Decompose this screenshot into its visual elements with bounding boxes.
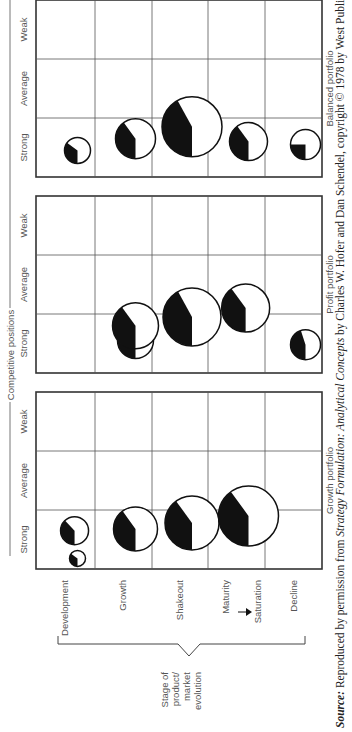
position-label-weak: Weak (18, 213, 29, 237)
market-bubble (163, 288, 221, 346)
position-label-average: Average (18, 267, 29, 302)
stage-axis-label-line: Stage of (159, 672, 170, 708)
competitive-positions-header: Competitive positions (5, 0, 16, 556)
market-bubble (222, 284, 270, 332)
stage-axis-label-line: evolution (192, 672, 203, 710)
stage-label-decline: Decline (288, 580, 299, 612)
header-label: Competitive positions (5, 310, 16, 401)
market-bubble (113, 507, 157, 551)
stage-label-maturity: Maturity (220, 580, 231, 614)
market-bubble (162, 97, 222, 157)
market-bubble (69, 550, 85, 566)
position-label-weak: Weak (18, 409, 29, 433)
market-bubble (64, 137, 90, 163)
grid-frame (36, 196, 322, 373)
market-bubble (291, 130, 321, 160)
position-label-strong: Strong (18, 330, 29, 358)
market-bubble (113, 303, 159, 349)
market-bubble (230, 123, 268, 161)
stage-axis: DevelopmentGrowthShakeoutMaturitySaturat… (58, 580, 305, 710)
stage-label-saturation: Saturation (252, 580, 263, 623)
position-label-average: Average (18, 71, 29, 106)
panel-growth-portfolio: StrongAverageWeakGrowth portfolio (18, 392, 335, 569)
stage-axis-label-line: market (181, 672, 192, 701)
source-text-1: Reproduced by permission from (334, 537, 347, 691)
stage-label-growth: Growth (117, 580, 128, 611)
position-label-weak: Weak (18, 17, 29, 41)
market-bubble (116, 119, 156, 159)
stage-label-development: Development (59, 580, 70, 636)
position-label-strong: Strong (18, 134, 29, 162)
position-label-average: Average (18, 463, 29, 498)
stage-axis-label-line: product/ (170, 672, 181, 707)
source-text-2: by Charles W. Hofer and Dan Schendel, co… (334, 0, 347, 338)
portfolio-diagram: StrongAverageWeakGrowth portfolioStrongA… (0, 0, 352, 732)
stage-label-shakeout: Shakeout (174, 580, 185, 621)
market-bubble (218, 486, 278, 546)
panel-balanced-portfolio: StrongAverageWeakBalanced portfolio (18, 0, 335, 177)
source-prefix: Source: (334, 691, 346, 728)
source-book-title: Strategy Formulation: Analytical Concept… (334, 337, 347, 536)
market-share-wedge (291, 145, 306, 160)
position-label-strong: Strong (18, 526, 29, 554)
rotated-figure-page: StrongAverageWeakGrowth portfolioStrongA… (0, 0, 352, 732)
source-citation: Source: Reproduced by permission from St… (334, 0, 347, 728)
portfolio-panels: StrongAverageWeakGrowth portfolioStrongA… (18, 0, 335, 569)
market-bubble (165, 496, 219, 550)
stage-brace (58, 636, 305, 656)
market-bubble (291, 330, 321, 360)
market-bubble (61, 517, 89, 545)
panel-profit-portfolio: StrongAverageWeakProfit portfolio (18, 196, 335, 373)
